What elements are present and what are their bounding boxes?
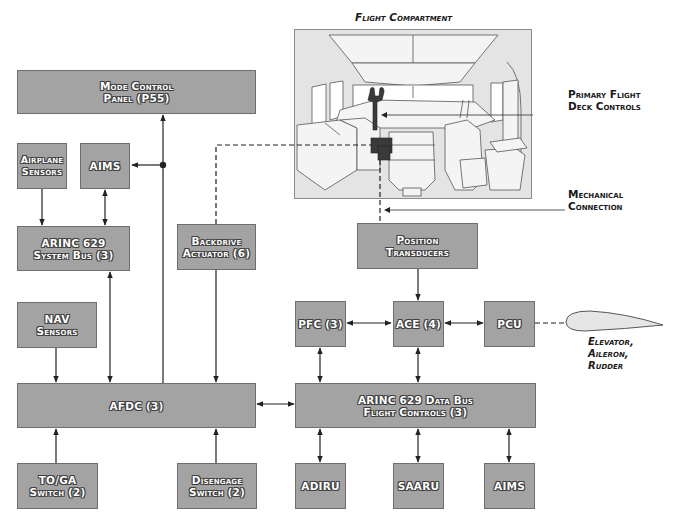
box-label: AIMS <box>90 160 121 172</box>
box-label: PCU <box>497 318 522 330</box>
box-label: ARINC 629 <box>42 237 106 249</box>
box-label: Panel (P55) <box>104 92 170 104</box>
box-label: Backdrive <box>192 235 242 247</box>
ace-box: ACE (4) <box>393 301 444 347</box>
box-label: Disengage <box>192 474 243 486</box>
box-label: ADIRU <box>301 480 339 492</box>
box-label: AIMS <box>494 480 525 492</box>
mode-control-panel-box: Mode Control Panel (P55) <box>17 70 256 114</box>
arinc-data-bus-box: ARINC 629 Data Bus Flight Controls (3) <box>295 383 536 428</box>
box-label: AFDC (3) <box>110 400 164 412</box>
box-label: Sensors <box>36 325 77 337</box>
box-label: ARINC 629 Data Bus <box>358 394 473 406</box>
adiru-box: ADIRU <box>295 463 346 509</box>
box-label: NAV <box>45 313 70 325</box>
box-label: Switch (2) <box>189 486 245 498</box>
arinc-system-bus-box: ARINC 629 System Bus (3) <box>17 226 130 271</box>
airfoil-icon <box>566 311 663 331</box>
saaru-box: SAARU <box>393 463 444 509</box>
position-transducers-box: Position Transducers <box>357 223 478 269</box>
box-label: ACE (4) <box>396 318 441 330</box>
aims-top-box: AIMS <box>80 143 130 189</box>
junction-dot <box>160 162 166 168</box>
pfc-box: PFC (3) <box>295 301 346 347</box>
airplane-sensors-box: Airplane Sensors <box>17 143 67 189</box>
box-label: Airplane <box>21 154 64 166</box>
box-label: Sensors <box>22 166 62 178</box>
box-label: PFC (3) <box>298 318 343 330</box>
box-label: Transducers <box>386 246 449 258</box>
nav-sensors-box: NAV Sensors <box>17 302 97 348</box>
disengage-switch-box: Disengage Switch (2) <box>177 463 257 509</box>
box-label: Position <box>396 234 438 246</box>
box-label: Mode Control <box>100 80 173 92</box>
aims-bottom-box: AIMS <box>484 463 535 509</box>
toga-switch-box: TO/GA Switch (2) <box>17 463 98 509</box>
box-label: SAARU <box>398 480 439 492</box>
box-label: Switch (2) <box>29 486 85 498</box>
box-label: Flight Controls (3) <box>364 406 468 418</box>
pcu-box: PCU <box>484 301 535 347</box>
afdc-box: AFDC (3) <box>17 383 256 428</box>
backdrive-actuator-box: Backdrive Actuator (6) <box>177 224 256 270</box>
box-label: TO/GA <box>39 474 77 486</box>
box-label: System Bus (3) <box>34 249 114 261</box>
box-label: Actuator (6) <box>183 247 250 259</box>
